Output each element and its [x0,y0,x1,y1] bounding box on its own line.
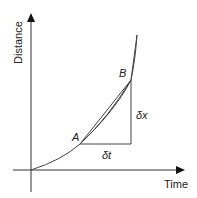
distance-curve-upper [80,35,137,144]
y-axis-arrow-icon [27,13,35,22]
chord-ab [80,80,131,144]
x-axis-label: Time [164,178,188,190]
delta-t-label: δt [102,149,112,161]
point-b-label: B [119,67,126,79]
distance-time-diagram: Distance Time A B δt δx [0,0,197,198]
y-axis-label: Distance [12,21,24,64]
point-a-label: A [71,131,79,143]
delta-x-label: δx [136,109,148,121]
x-axis-arrow-icon [176,166,185,174]
distance-curve [31,35,137,170]
